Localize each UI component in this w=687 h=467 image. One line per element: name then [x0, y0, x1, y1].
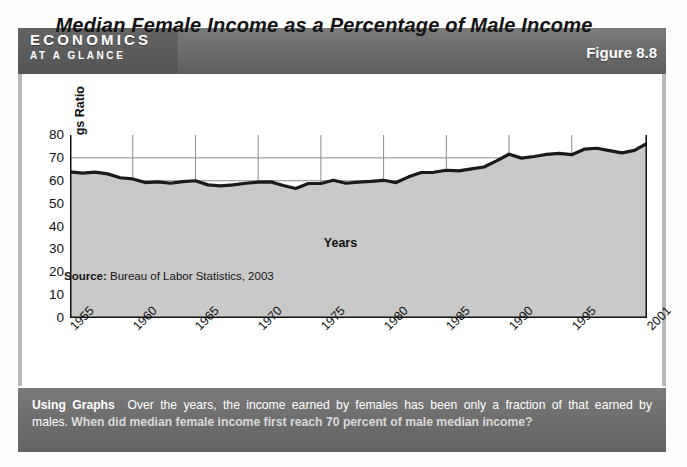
source-note: Source: Bureau of Labor Statistics, 2003 [64, 270, 274, 282]
caption-box: Using Graphs Over the years, the income … [18, 388, 666, 452]
y-axis-tick-label: 10 [49, 288, 64, 302]
source-text: Bureau of Labor Statistics, 2003 [110, 270, 274, 282]
chart-svg [70, 135, 647, 318]
y-axis-tick-label: 40 [49, 220, 64, 234]
chart-container: Female/Male Earnings Ratio 0102030405060… [18, 122, 666, 342]
y-axis-tick-label: 80 [49, 128, 64, 142]
y-axis-tick-label: 50 [49, 197, 64, 211]
figure-number-label: Figure 8.8 [586, 44, 657, 61]
y-axis-tick-label: 60 [49, 174, 64, 188]
y-axis-tick-label: 20 [49, 266, 64, 280]
caption-lead: Using Graphs [32, 398, 115, 412]
caption-question: When did median female income first reac… [71, 415, 532, 429]
chart-title: Median Female Income as a Percentage of … [0, 14, 648, 37]
plot-area: 0102030405060708019551960196519701975198… [70, 135, 647, 318]
figure-page: ECONOMICS AT A GLANCE Figure 8.8 Median … [0, 0, 687, 467]
y-axis-tick-label: 0 [56, 311, 64, 325]
brand-subtitle: AT A GLANCE [30, 50, 125, 62]
y-axis-tick-label: 70 [49, 151, 64, 165]
x-axis-tick-label: 2001 [645, 304, 674, 333]
source-label: Source: [64, 270, 107, 282]
x-axis-title: Years [52, 236, 629, 250]
